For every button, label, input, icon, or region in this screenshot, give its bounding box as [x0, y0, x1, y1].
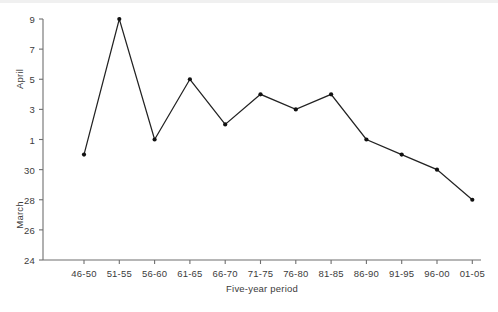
data-point-markers: 46-50: March 3151-55: April 956-60: Apri…	[82, 17, 475, 202]
x-tick-label: 91-95	[389, 268, 414, 279]
y-tick-label: 24	[24, 255, 35, 266]
data-point-marker: 81-85: April 4	[329, 92, 333, 96]
data-point-marker: 51-55: April 9	[117, 17, 121, 21]
data-point-marker: 71-75: April 4	[258, 92, 262, 96]
y-tick-label: 1	[30, 134, 35, 145]
y-tick-label: 28	[24, 194, 35, 205]
data-point-marker: 46-50: March 31	[82, 152, 86, 156]
x-tick-label: 56-60	[142, 268, 167, 279]
data-point-marker: 96-00: March 30	[435, 168, 439, 172]
x-tick-label: 46-50	[71, 268, 96, 279]
data-point-marker: 91-95: March 31	[400, 152, 404, 156]
x-tick-label: 01-05	[460, 268, 485, 279]
x-tick-label: 81-85	[318, 268, 343, 279]
data-series-line	[84, 19, 472, 200]
x-tick-label: 51-55	[107, 268, 132, 279]
line-chart-plot: 46-50: March 3151-55: April 956-60: Apri…	[0, 0, 498, 312]
x-tick-label: 86-90	[354, 268, 379, 279]
x-axis-title: Five-year period	[226, 283, 298, 294]
data-point-marker: 61-65: April 5	[188, 77, 192, 81]
data-point-marker: 76-80: April 3	[294, 107, 298, 111]
x-tick-label: 71-75	[248, 268, 273, 279]
chart-figure: 46-50: March 3151-55: April 956-60: Apri…	[0, 0, 498, 312]
axis-lines	[43, 19, 481, 260]
data-point-marker: 01-05: March 28	[470, 198, 474, 202]
y-tick-label: 9	[30, 14, 35, 25]
y-tick-label: 7	[30, 44, 35, 55]
y-axis-title-march: March	[14, 201, 25, 228]
y-tick-label: 30	[24, 164, 35, 175]
data-point-marker: 86-90: April 1	[364, 137, 368, 141]
x-tick-label: 96-00	[424, 268, 449, 279]
x-tick-label: 76-80	[283, 268, 308, 279]
x-axis-ticks	[84, 260, 472, 264]
y-tick-label: 26	[24, 224, 35, 235]
y-tick-label: 5	[30, 74, 35, 85]
y-axis-title-april: April	[14, 69, 25, 89]
x-tick-label: 61-65	[177, 268, 202, 279]
data-point-marker: 66-70: April 2	[223, 122, 227, 126]
x-tick-label: 66-70	[213, 268, 238, 279]
y-tick-label: 3	[30, 104, 35, 115]
data-point-marker: 56-60: April 1	[153, 137, 157, 141]
y-axis-ticks	[39, 19, 43, 260]
